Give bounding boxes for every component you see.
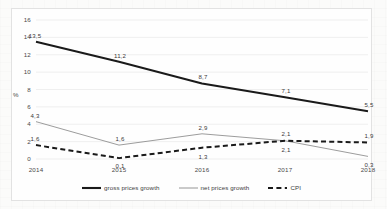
data-label: 1,6 xyxy=(107,135,133,142)
data-label: 13,5 xyxy=(22,32,48,39)
y-axis-tick-label: 16 xyxy=(9,16,31,23)
data-label: 2,1 xyxy=(273,130,299,137)
y-axis-tick-label: 6 xyxy=(9,103,31,110)
data-label: 7,1 xyxy=(273,87,299,94)
data-label: 0,3 xyxy=(356,161,382,168)
legend-item-net-prices-growth[interactable]: net prices growth xyxy=(179,184,250,191)
chart-legend: gross prices growth net prices growth CP… xyxy=(11,184,372,191)
x-axis-tick-label: 2017 xyxy=(265,166,305,173)
data-label: 2,1 xyxy=(273,146,299,153)
legend-item-gross-prices-growth[interactable]: gross prices growth xyxy=(82,184,160,191)
y-axis-tick-label: 0 xyxy=(9,155,31,162)
data-label: 11,2 xyxy=(107,52,133,59)
series-lines xyxy=(36,42,368,158)
line-chart-plot xyxy=(0,0,387,209)
x-axis-tick-label: 2014 xyxy=(16,166,56,173)
legend-label: CPI xyxy=(290,184,301,191)
legend-item-cpi[interactable]: CPI xyxy=(268,184,301,191)
data-label: 2,9 xyxy=(190,124,216,131)
x-axis-tick-label: 2016 xyxy=(182,166,222,173)
gridlines xyxy=(36,20,368,159)
data-label: 1,6 xyxy=(22,135,48,142)
y-axis-tick-label: 4 xyxy=(9,120,31,127)
y-axis-tick-label: 10 xyxy=(9,68,31,75)
data-label: 5,5 xyxy=(356,101,382,108)
legend-label: net prices growth xyxy=(201,184,250,191)
data-label: 1,9 xyxy=(356,132,382,139)
data-label: 4,3 xyxy=(22,112,48,119)
legend-swatch-solid-thick-icon xyxy=(82,185,101,191)
data-label: 8,7 xyxy=(190,73,216,80)
legend-swatch-solid-thin-icon xyxy=(179,185,198,191)
legend-swatch-dashed-icon xyxy=(268,185,287,191)
data-label: 0,1 xyxy=(107,162,133,169)
y-axis-tick-label: 12 xyxy=(9,51,31,58)
legend-label: gross prices growth xyxy=(104,184,160,191)
data-label: 1,3 xyxy=(190,153,216,160)
y-axis-unit-label: % xyxy=(13,91,19,98)
